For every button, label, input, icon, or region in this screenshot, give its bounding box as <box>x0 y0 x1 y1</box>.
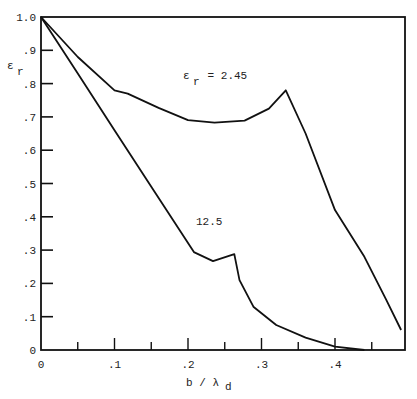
y-axis-title: ε r <box>7 60 24 78</box>
data-curves <box>41 17 401 350</box>
x-axis-title: b / λ d <box>186 377 232 393</box>
x-axis-label-sub: d <box>225 381 232 393</box>
y-tick-label: .9 <box>23 45 36 57</box>
y-tick-label: .7 <box>23 112 36 124</box>
y-tick-label: .5 <box>23 179 36 191</box>
x-tick-label: .2 <box>181 359 194 371</box>
plot-border <box>41 17 405 350</box>
y-tick-label: .1 <box>23 312 37 324</box>
annotation-epsilon: ε <box>183 70 190 82</box>
annotation-upper-curve: ε r = 2.45 <box>183 70 247 88</box>
y-tick-label: 1.0 <box>16 12 36 24</box>
y-tick-label: 0 <box>29 345 36 357</box>
x-axis-label: b / λ <box>186 377 219 389</box>
y-tick-label: .4 <box>23 212 37 224</box>
chart: 0.1.2.3.4.5.6.7.8.91.0 0.1.2.3.4 ε r b /… <box>0 0 417 399</box>
plot-frame <box>41 17 405 350</box>
y-axis-label-sub: r <box>17 66 24 78</box>
y-tick-label: .2 <box>23 278 36 290</box>
curve-er-2-45 <box>41 17 401 330</box>
annotation-value: = 2.45 <box>201 70 247 82</box>
y-axis-label-epsilon: ε <box>7 60 14 72</box>
y-tick-label: .3 <box>23 245 36 257</box>
y-tick-label: .6 <box>23 145 36 157</box>
x-tick-label: 0 <box>38 359 45 371</box>
x-tick-label: .1 <box>108 359 122 371</box>
x-tick-label: .4 <box>328 359 342 371</box>
annotation-sub: r <box>193 76 200 88</box>
annotation-lower-curve: 12.5 <box>196 216 222 228</box>
x-tick-label: .3 <box>255 359 268 371</box>
y-tick-label: .8 <box>23 79 36 91</box>
y-axis-ticks: 0.1.2.3.4.5.6.7.8.91.0 <box>16 12 53 357</box>
